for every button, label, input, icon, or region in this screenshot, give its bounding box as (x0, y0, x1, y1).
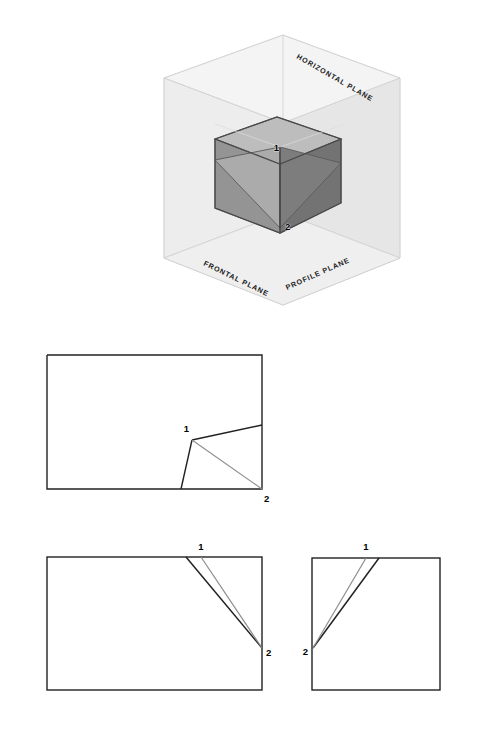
side-view-edge-light (313, 558, 366, 648)
top-view-point-label-1: 1 (184, 423, 190, 434)
front-view-edge-dark (186, 557, 262, 648)
front-view-point-label-1: 1 (198, 541, 204, 552)
front-view: 1 2 (47, 541, 271, 690)
side-view-point-label-1: 1 (363, 541, 369, 552)
technical-drawing-figure: 1 2 HORIZONTAL PLANE FRONTAL PLANE PROFI… (0, 0, 485, 729)
top-view-point-label-2: 2 (264, 493, 269, 504)
isometric-pictorial: 1 2 HORIZONTAL PLANE FRONTAL PLANE PROFI… (164, 35, 400, 305)
front-view-edge-light (201, 557, 262, 648)
iso-point-label-1: 1 (274, 142, 280, 153)
front-view-point-label-2: 2 (266, 647, 271, 658)
side-view-point-label-2: 2 (303, 646, 308, 657)
top-view-incline-edge (192, 425, 262, 440)
top-view-rect-outline (47, 355, 262, 489)
top-view-diagonal-1-2 (192, 440, 262, 489)
side-view-edge-dark (313, 558, 379, 648)
front-view-rect-outline (47, 557, 262, 690)
top-view: 1 2 (47, 355, 269, 504)
top-view-left-notch-edge (181, 440, 192, 489)
side-view: 1 2 (303, 541, 440, 690)
iso-point-label-2: 2 (285, 221, 290, 232)
